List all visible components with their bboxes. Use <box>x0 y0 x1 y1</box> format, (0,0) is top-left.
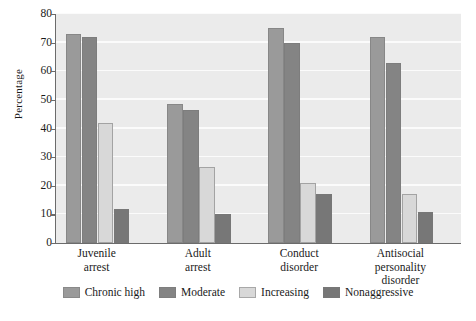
y-tick-label: 20 <box>12 180 52 192</box>
x-axis-label-line: Antisocial <box>350 247 450 261</box>
bar <box>386 63 402 243</box>
bars-layer <box>56 14 461 243</box>
bar-chart-figure: Percentage 01020304050607080 Juvenilearr… <box>0 0 476 321</box>
bar <box>82 37 98 243</box>
x-axis-label: Conductdisorder <box>249 247 349 274</box>
bar-group <box>268 14 332 243</box>
bar <box>284 43 300 243</box>
bar <box>167 104 183 243</box>
bar <box>300 183 316 243</box>
x-axis-label-line: Adult <box>148 247 248 261</box>
bar-group <box>66 14 130 243</box>
x-axis-label-line: arrest <box>47 261 147 275</box>
y-tick-label: 10 <box>12 208 52 220</box>
chart-legend: Chronic highModerateIncreasingNonaggress… <box>0 287 476 299</box>
x-axis-label: Juvenilearrest <box>47 247 147 274</box>
legend-item: Increasing <box>239 287 309 299</box>
legend-item: Nonaggressive <box>323 287 413 299</box>
bar <box>370 37 386 243</box>
legend-item: Moderate <box>159 287 225 299</box>
bar <box>316 194 332 243</box>
legend-label: Moderate <box>181 287 225 299</box>
legend-item: Chronic high <box>63 287 145 299</box>
x-axis-label: Antisocialpersonalitydisorder <box>350 247 450 288</box>
bar-group <box>370 14 434 243</box>
bar <box>215 214 231 243</box>
x-axis-label-line: Conduct <box>249 247 349 261</box>
y-tick-label: 80 <box>12 8 52 20</box>
legend-swatch <box>159 287 176 298</box>
x-axis-label: Adultarrest <box>148 247 248 274</box>
legend-swatch <box>63 287 80 298</box>
x-axis-label-line: disorder <box>249 261 349 275</box>
legend-label: Nonaggressive <box>345 287 413 299</box>
x-axis-label-line: Juvenile <box>47 247 147 261</box>
bar <box>199 167 215 243</box>
bar <box>183 110 199 243</box>
y-tick-label: 30 <box>12 151 52 163</box>
legend-swatch <box>239 287 256 298</box>
plot-area <box>55 14 461 244</box>
x-axis-label-line: arrest <box>148 261 248 275</box>
y-axis-title: Percentage <box>12 44 24 144</box>
bar <box>268 28 284 243</box>
x-axis-label-line: personality <box>350 261 450 275</box>
legend-swatch <box>323 287 340 298</box>
bar-group <box>167 14 231 243</box>
bar <box>66 34 82 243</box>
bar <box>402 194 418 243</box>
bar <box>114 209 130 243</box>
legend-label: Chronic high <box>85 287 145 299</box>
bar <box>98 123 114 243</box>
bar <box>418 212 434 243</box>
legend-label: Increasing <box>261 287 309 299</box>
